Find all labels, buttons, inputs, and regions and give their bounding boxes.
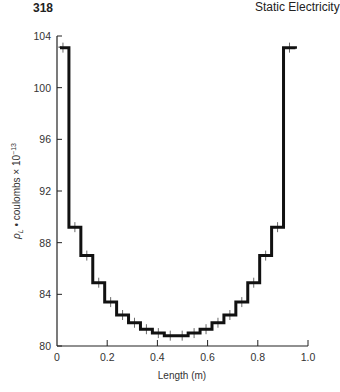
x-tick-label: 1.0 [301, 351, 316, 363]
y-tick-label: 84 [39, 288, 51, 300]
y-tick-label: 92 [39, 185, 51, 197]
step-line [60, 48, 295, 336]
x-tick-label: 0.6 [200, 351, 215, 363]
x-tick-label: 0.2 [100, 351, 115, 363]
y-axis-title: ρL • coulombs × 10−13 [10, 143, 24, 240]
y-tick-label: 80 [39, 340, 51, 352]
x-axis-title: Length (m) [158, 370, 206, 381]
x-tick-label: 0.8 [250, 351, 265, 363]
x-tick-label: 0 [54, 351, 60, 363]
y-tick-label: 96 [39, 133, 51, 145]
axes: 808488929610010400.20.40.60.81.0 [33, 30, 315, 363]
x-tick-label: 0.4 [150, 351, 165, 363]
y-tick-label: 100 [33, 82, 51, 94]
charge-density-series [60, 43, 295, 341]
y-tick-label: 88 [39, 237, 51, 249]
y-tick-label: 104 [33, 30, 51, 42]
